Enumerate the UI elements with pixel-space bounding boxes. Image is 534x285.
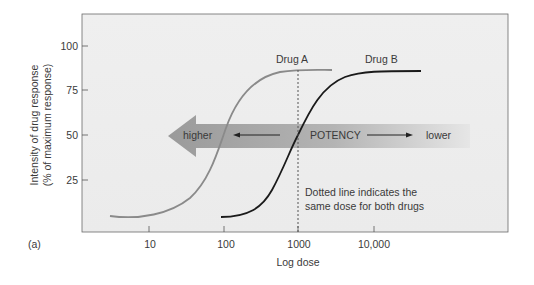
note-line-2: same dose for both drugs [305,200,424,212]
drug-b-label: Drug B [365,53,398,65]
potency-label: POTENCY [310,129,361,141]
higher-label: higher [183,129,213,141]
y-tick-25: 25 [66,174,78,186]
x-tick-10000: 10,000 [358,238,390,250]
chart: higher POTENCY lower Drug A Drug B Dotte… [0,0,534,285]
y-tick-100: 100 [60,40,78,52]
drug-a-label: Drug A [276,53,308,65]
x-tick-10: 10 [144,238,156,250]
x-axis-label: Log dose [276,256,319,268]
x-tick-100: 100 [217,238,235,250]
panel-label: (a) [28,238,41,250]
y-tick-75: 75 [66,84,78,96]
lower-label: lower [426,129,452,141]
y-axis-label-line-2: (% of maximum response) [41,64,53,187]
x-tick-1000: 1000 [287,238,311,250]
y-axis-label-line-1: Intensity of drug response [28,64,40,185]
y-tick-50: 50 [66,129,78,141]
note-line-1: Dotted line indicates the [305,186,417,198]
plot-area [82,14,508,232]
